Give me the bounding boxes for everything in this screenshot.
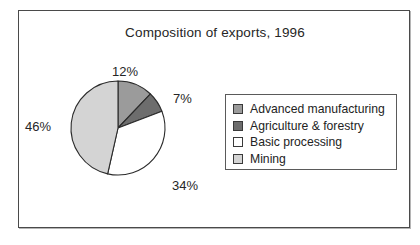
legend-swatch-icon [233,104,243,114]
pie-label-mining: 46% [25,119,51,134]
legend-item-label: Basic processing [250,135,342,149]
legend-swatch-icon [233,121,243,131]
legend-item-basic-processing[interactable]: Basic processing [233,134,396,150]
chart-frame: Composition of exports, 1996 12% 7% 34% … [18,10,410,228]
legend-item-agriculture-forestry[interactable]: Agriculture & forestry [233,118,396,134]
legend-item-label: Agriculture & forestry [250,119,364,133]
chart-legend: Advanced manufacturing Agriculture & for… [225,94,397,170]
pie-slice-mining[interactable] [71,81,118,174]
pie-svg [59,69,177,187]
pie-label-agriculture-forestry: 7% [173,91,192,106]
legend-item-mining[interactable]: Mining [233,151,396,167]
legend-swatch-icon [233,137,243,147]
pie-label-advanced-manufacturing: 12% [112,64,138,79]
legend-item-advanced-manufacturing[interactable]: Advanced manufacturing [233,101,396,117]
legend-item-label: Advanced manufacturing [250,102,385,116]
pie-label-basic-processing: 34% [172,178,198,193]
legend-item-label: Mining [250,152,286,166]
legend-swatch-icon [233,154,243,164]
